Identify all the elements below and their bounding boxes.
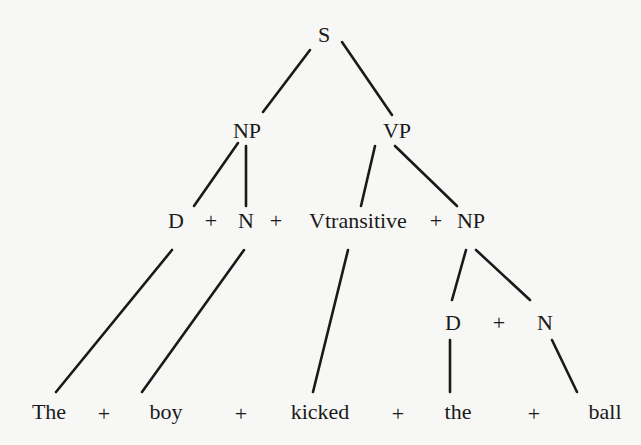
plus-sign: +: [392, 403, 404, 425]
node-np: NP: [233, 120, 261, 142]
plus-sign: +: [205, 210, 217, 232]
node-vp: VP: [383, 120, 411, 142]
node-n: N: [238, 210, 254, 232]
node-np-object: NP: [457, 210, 485, 232]
plus-sign: +: [493, 312, 505, 334]
terminal-kicked: kicked: [291, 401, 350, 423]
plus-sign: +: [98, 403, 110, 425]
plus-sign: +: [235, 403, 247, 425]
terminal-ball: ball: [589, 401, 622, 423]
plus-sign: +: [528, 403, 540, 425]
node-d-object: D: [445, 312, 461, 334]
syntax-tree-diagram: S NP VP D + N + Vtransitive + NP D + N T…: [0, 0, 641, 445]
node-vtransitive: Vtransitive: [309, 210, 407, 232]
node-n-object: N: [537, 312, 553, 334]
node-s: S: [318, 24, 330, 46]
plus-sign: +: [270, 210, 282, 232]
terminal-boy: boy: [150, 401, 183, 423]
terminal-the: The: [32, 401, 66, 423]
plus-sign: +: [430, 210, 442, 232]
terminal-the-lowercase: the: [445, 401, 472, 423]
node-d: D: [168, 210, 184, 232]
